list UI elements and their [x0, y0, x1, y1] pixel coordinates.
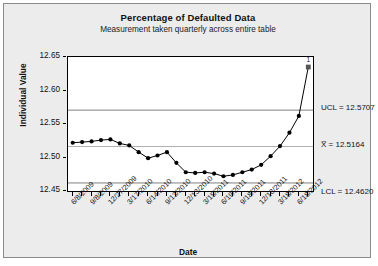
data-point	[231, 173, 235, 177]
data-point	[89, 139, 93, 143]
y-tick-mark	[63, 123, 66, 124]
y-tick-mark	[63, 157, 66, 158]
data-point	[268, 154, 272, 158]
plot-area: 1	[67, 56, 314, 192]
chart-svg: 1	[68, 57, 313, 191]
y-tick-label: 12.65	[8, 51, 60, 60]
y-tick-label: 12.60	[8, 85, 60, 94]
data-point	[155, 153, 159, 157]
data-point	[80, 140, 84, 144]
data-point	[184, 170, 188, 174]
data-point	[203, 170, 207, 174]
data-point	[297, 114, 301, 118]
chart-panel: Percentage of Defaulted Data Measurement…	[3, 3, 371, 258]
data-point	[193, 171, 197, 175]
y-tick-label: 12.50	[8, 152, 60, 161]
data-point	[108, 137, 112, 141]
data-point	[287, 131, 291, 135]
data-point-violation	[306, 65, 311, 70]
data-point	[127, 143, 131, 147]
data-point	[99, 138, 103, 142]
center-line-label: X̅ = 12.5164	[321, 140, 364, 149]
y-tick-label: 12.55	[8, 118, 60, 127]
y-tick-mark	[63, 90, 66, 91]
data-point	[118, 141, 122, 145]
ucl-label: UCL = 12.5707	[321, 103, 375, 112]
data-point	[146, 156, 150, 160]
data-point	[259, 163, 263, 167]
violation-label: 1	[306, 57, 310, 63]
data-point	[71, 141, 75, 145]
data-point	[174, 161, 178, 165]
series-line	[73, 67, 309, 176]
data-point	[165, 150, 169, 154]
x-axis-title: Date	[4, 247, 372, 257]
lcl-label: LCL = 12.4620	[321, 187, 373, 196]
y-tick-label: 12.45	[8, 185, 60, 194]
data-point	[212, 171, 216, 175]
data-point	[240, 170, 244, 174]
data-point	[137, 150, 141, 154]
y-tick-mark	[63, 56, 66, 57]
data-point	[250, 167, 254, 171]
y-tick-mark	[63, 190, 66, 191]
data-point	[278, 144, 282, 148]
